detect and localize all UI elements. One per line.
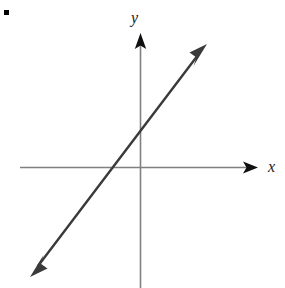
list-bullet-icon xyxy=(4,10,9,15)
y-axis-label: y xyxy=(131,10,138,26)
graphed-line xyxy=(38,55,198,266)
x-axis-label: x xyxy=(268,159,275,175)
graph-figure: y x xyxy=(0,0,285,288)
coordinate-plane-svg xyxy=(0,0,285,288)
